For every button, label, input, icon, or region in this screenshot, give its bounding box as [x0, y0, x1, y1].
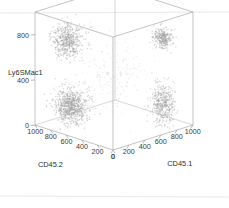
- z-tick-label-400: 400: [17, 76, 29, 85]
- axis-tick-label: 0: [111, 152, 115, 161]
- axis-ticks-layer: 0200400600800100002004006008001000: [27, 35, 201, 161]
- axis-tick-label: 600: [155, 137, 167, 146]
- axis-tick-label: 1000: [185, 127, 201, 136]
- z-tick-label-0: 0: [25, 121, 29, 130]
- x-axis-title: CD45.2: [38, 160, 63, 169]
- axis-tick-label: 200: [123, 147, 135, 156]
- axis-tick-label: 800: [171, 132, 183, 141]
- scan-artifact-layer: [0, 12, 229, 197]
- z-axis-title: Ly6SMac1: [8, 68, 43, 77]
- axis-tick-label: 1000: [27, 127, 43, 136]
- plot-canvas: 0200400600800100002004006008001000 0 400…: [0, 0, 229, 208]
- y-axis-title: CD45.1: [167, 159, 192, 168]
- axis-tick-label: 600: [60, 137, 72, 146]
- data-points-layer: [44, 14, 179, 132]
- axis-tick-label: 400: [139, 142, 151, 151]
- axis-tick-label: 400: [76, 142, 88, 151]
- z-tick-label-800: 800: [17, 31, 29, 40]
- axis-tick-label: 200: [92, 147, 104, 156]
- scatter-plot-3d: 0200400600800100002004006008001000 0 400…: [0, 0, 229, 208]
- axis-tick-label: 800: [45, 132, 57, 141]
